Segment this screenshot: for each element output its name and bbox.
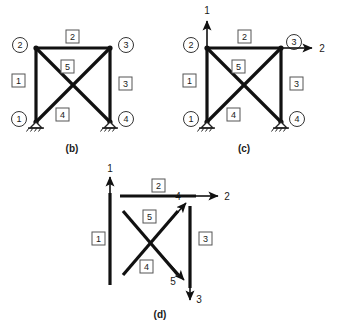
panel-c-dof-2-label: 2 [319,43,325,54]
panel-d-member-label-2: 2 [152,179,165,192]
panel-d-dof-4-label: 4 [175,191,181,202]
panel-b-member-label-5: 5 [61,60,74,73]
panel-b: 2 3 1 4 1 2 [12,30,134,154]
member-label-text: 5 [147,212,152,222]
panel-d-dof-5-label: 5 [170,276,176,287]
panel-b-node-3: 3 [119,38,134,53]
member-label-text: 5 [236,62,241,72]
panel-b-node-2: 2 [13,38,28,53]
panel-c-node-4-label: 4 [294,114,299,124]
panel-c: 2 3 1 4 1 2 3 [183,5,325,154]
panel-d-dof-1-label: 1 [107,163,113,174]
member-label-text: 1 [187,76,192,86]
panel-b-node-4-label: 4 [123,114,128,124]
panel-b-node-1-label: 1 [16,114,21,124]
panel-b-node-2-label: 2 [17,40,22,50]
panel-b-joint-2 [33,45,38,50]
panel-c-node-2-label: 2 [188,40,193,50]
panel-d: 1 2 3 4 5 1 [92,163,230,320]
member-label-text: 4 [144,262,149,272]
panel-d-member-label-1: 1 [92,232,105,245]
panel-c-node-4: 4 [290,112,305,127]
member-label-text: 1 [16,76,21,86]
member-label-text: 4 [60,110,65,120]
panel-d-member-label-3: 3 [199,232,212,245]
panel-c-node-2: 2 [184,38,199,53]
panel-d-dof-3-label: 3 [196,294,202,305]
member-label-text: 2 [156,181,161,191]
panel-d-caption: (d) [154,309,167,320]
panel-d-dof-arrow-2: 2 [193,191,230,202]
panel-b-member-label-3: 3 [119,77,132,90]
panel-b-member-label-2: 2 [66,30,79,43]
member-label-text: 5 [65,62,70,72]
panel-c-member-label-1: 1 [183,74,196,87]
panel-c-dof-arrow-1: 1 [204,5,210,48]
member-label-text: 2 [70,32,75,42]
member-label-text: 3 [203,234,208,244]
panel-d-dof-arrow-1: 1 [107,163,113,196]
panel-b-support-left [27,122,45,132]
panel-d-dof-2-label: 2 [224,191,230,202]
panel-c-support-right [272,122,290,132]
panel-c-node-1-label: 1 [188,114,193,124]
panel-b-node-1: 1 [12,112,27,127]
panel-b-node-4: 4 [119,112,134,127]
panel-d-member-label-4: 4 [140,260,153,273]
panel-c-node-1: 1 [184,112,199,127]
panel-c-dof-1-label: 1 [204,5,210,16]
member-label-text: 3 [123,79,128,89]
panel-b-caption: (b) [66,143,79,154]
panel-d-dof-arrow-3: 3 [190,270,202,305]
panel-b-node-3-label: 3 [123,40,128,50]
panel-b-member-label-4: 4 [56,108,69,121]
panel-d-member-label-5: 5 [143,210,156,223]
panel-c-member-label-3: 3 [290,77,303,90]
panel-c-member-label-5: 5 [232,60,245,73]
panel-b-support-right [101,122,119,132]
panel-c-support-left [198,122,216,132]
panel-c-member-label-2: 2 [238,30,251,43]
truss-figure: 2 3 1 4 1 2 [0,0,341,335]
panel-c-member-label-4: 4 [227,108,240,121]
member-label-text: 2 [242,32,247,42]
member-label-text: 4 [231,110,236,120]
panel-c-node-3-label: 3 [291,37,296,47]
panel-b-member-label-1: 1 [12,74,25,87]
panel-b-joint-3 [107,45,112,50]
member-label-text: 1 [96,234,101,244]
member-label-text: 3 [294,79,299,89]
panel-c-caption: (c) [238,143,250,154]
